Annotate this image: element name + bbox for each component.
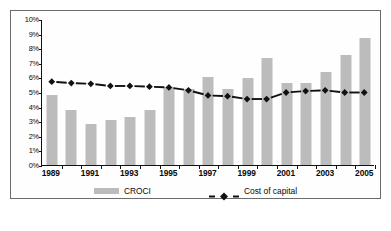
y-tick-mark [39,151,42,152]
y-tick-label: 8% [29,45,39,52]
x-tick-mark [375,165,376,169]
legend-item-croci: CROCI [94,186,151,196]
y-tick-mark [39,78,42,79]
figure-frame: 10%9%8%7%6%5%4%3%2%1%0% 1989199119931995… [10,10,381,199]
cost-of-capital-dash [232,97,242,99]
figure-caption [0,206,391,231]
y-tick-label: 7% [29,60,39,67]
legend-bar-swatch-icon [94,188,119,194]
y-tick-mark [39,122,42,123]
cost-of-capital-marker [302,88,309,95]
cost-of-capital-marker [205,92,212,99]
y-tick-mark [39,64,42,65]
x-tick-label: 1997 [198,168,216,178]
cost-of-capital-marker [126,83,133,90]
y-tick-label: 0% [29,162,39,169]
cost-of-capital-marker [146,83,153,90]
cost-of-capital-dash [271,94,282,98]
y-tick-mark [39,137,42,138]
cost-of-capital-marker [185,87,192,94]
y-tick-label: 2% [29,133,39,140]
cost-of-capital-marker [283,89,290,96]
x-tick-label: 1991 [81,168,99,178]
x-tick-label: 2003 [316,168,334,178]
y-tick-mark [39,20,42,21]
cost-of-capital-marker [322,87,329,94]
y-tick-label: 5% [29,89,39,96]
cost-of-capital-dash [173,88,183,90]
x-tick-label: 1995 [159,168,177,178]
legend-item-cost-of-capital: Cost of capital [209,186,297,196]
y-tick-label: 4% [29,104,39,111]
cost-of-capital-marker [107,83,114,90]
cost-of-capital-dash [95,84,105,85]
cost-of-capital-marker [87,80,94,87]
y-tick-label: 1% [29,148,39,155]
cost-of-capital-marker [361,89,368,96]
y-tick-mark [39,166,42,167]
plot-area [41,20,374,166]
cost-of-capital-marker [68,80,75,87]
x-tick-label: 2001 [277,168,295,178]
y-tick-label: 9% [29,31,39,38]
legend-label-cost-of-capital: Cost of capital [244,186,297,196]
x-tick-label: 1993 [120,168,138,178]
y-tick-label: 10% [25,16,39,23]
x-axis-labels: 198919911993199519971999200120032005 [41,168,374,184]
cost-of-capital-dash [291,91,301,92]
cost-of-capital-dash [56,82,66,83]
cost-of-capital-marker [224,93,231,100]
cost-of-capital-marker [244,96,251,103]
cost-of-capital-marker [341,89,348,96]
y-axis-labels: 10%9%8%7%6%5%4%3%2%1%0% [13,20,39,166]
y-tick-mark [39,93,42,94]
y-tick-mark [39,35,42,36]
line-series-cost-of-capital [42,20,374,165]
cost-of-capital-marker [166,84,173,91]
x-tick-label: 1999 [238,168,256,178]
y-tick-mark [39,108,42,109]
x-tick-label: 1989 [42,168,60,178]
cost-of-capital-marker [48,78,55,85]
cost-of-capital-dash [193,91,204,94]
y-tick-mark [39,49,42,50]
y-tick-label: 6% [29,75,39,82]
legend-dashed-diamond-icon [209,187,239,196]
chart-legend: CROCI Cost of capital [11,183,380,199]
y-tick-label: 3% [29,118,39,125]
cost-of-capital-marker [263,96,270,103]
legend-label-croci: CROCI [124,186,151,196]
x-tick-label: 2005 [355,168,373,178]
chart-plot-wrapper: 10%9%8%7%6%5%4%3%2%1%0% 1989199119931995… [11,11,380,198]
cost-of-capital-dash [330,91,340,92]
